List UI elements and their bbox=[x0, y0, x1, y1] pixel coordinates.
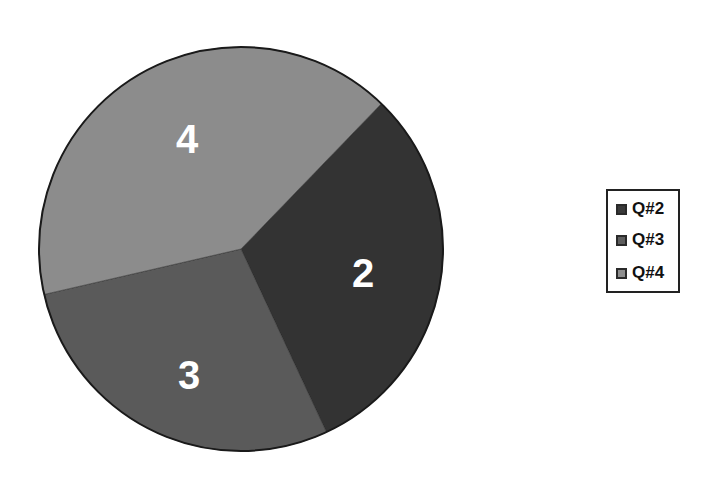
legend-item-q2: Q#2 bbox=[616, 199, 664, 219]
slice-label-q4: 4 bbox=[176, 119, 198, 159]
legend-item-q4: Q#4 bbox=[616, 263, 664, 283]
legend-label: Q#2 bbox=[632, 199, 664, 219]
legend-swatch-q3 bbox=[616, 235, 627, 246]
legend-label: Q#4 bbox=[632, 263, 664, 283]
legend-swatch-q2 bbox=[616, 204, 627, 215]
legend-item-q3: Q#3 bbox=[616, 230, 664, 250]
legend-label: Q#3 bbox=[632, 230, 664, 250]
legend-swatch-q4 bbox=[616, 268, 627, 279]
slice-label-q2: 2 bbox=[352, 253, 374, 293]
slice-label-q3: 3 bbox=[178, 355, 200, 395]
chart-legend: Q#2 Q#3 Q#4 bbox=[606, 189, 680, 293]
